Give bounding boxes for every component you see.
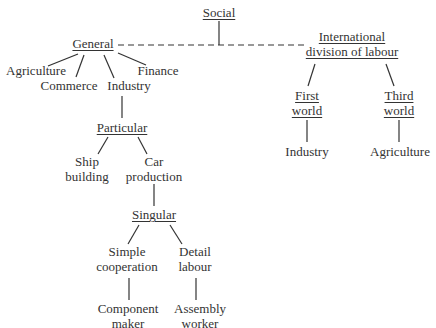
edge-singular-detail — [170, 225, 182, 244]
node-third-world-agriculture: Agriculture — [370, 145, 430, 160]
edge-general-commerce — [76, 55, 84, 77]
node-car-production: Car production — [126, 155, 182, 184]
edge-general-industry — [104, 55, 114, 78]
node-finance: Finance — [137, 64, 178, 79]
edge-particular-ship — [98, 137, 108, 154]
division-of-labour-diagram: Social General Agriculture Commerce Indu… — [0, 0, 436, 328]
node-assembly-worker: Assembly worker — [174, 302, 226, 328]
edge-singular-simple — [128, 225, 139, 244]
node-simple-cooperation: Simple cooperation — [96, 245, 157, 274]
edge-international-first — [308, 64, 315, 86]
node-detail-labour: Detail labour — [178, 245, 211, 274]
node-singular: Singular — [132, 208, 176, 223]
node-industry: Industry — [107, 79, 150, 94]
node-ship-building: Ship building — [65, 155, 108, 184]
node-commerce: Commerce — [40, 79, 97, 94]
node-international-division: International division of labour — [306, 30, 398, 59]
node-first-world-industry: Industry — [285, 145, 328, 160]
node-third-world: Third world — [384, 89, 414, 118]
edge-international-third — [386, 64, 394, 86]
node-first-world: First world — [292, 89, 322, 118]
node-social: Social — [203, 6, 236, 21]
node-general: General — [72, 37, 113, 52]
node-agriculture: Agriculture — [6, 64, 66, 79]
node-particular: Particular — [97, 121, 148, 136]
node-component-maker: Component maker — [98, 302, 159, 328]
edge-particular-car — [138, 137, 147, 154]
